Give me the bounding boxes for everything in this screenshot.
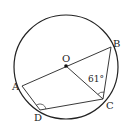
segment-DC xyxy=(40,99,103,110)
circle-diagram: O A B C D 61° xyxy=(0,0,130,128)
center-point-O xyxy=(64,64,68,68)
label-D: D xyxy=(34,112,42,123)
angle-label-61: 61° xyxy=(88,74,104,84)
label-B: B xyxy=(113,38,120,49)
label-C: C xyxy=(106,100,114,111)
angle-arc-C xyxy=(98,92,104,94)
label-O: O xyxy=(62,53,70,64)
segment-BC xyxy=(103,47,111,99)
label-A: A xyxy=(11,81,20,92)
